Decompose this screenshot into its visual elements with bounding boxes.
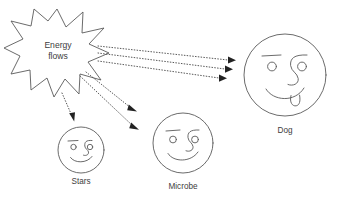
- flow-to-dog-1[interactable]: [98, 46, 236, 64]
- microbe-label: Microbe: [168, 182, 198, 191]
- flow-to-stars-1[interactable]: [62, 93, 75, 122]
- dog-node[interactable]: Dog: [244, 34, 326, 135]
- dog-mouth-icon: [266, 88, 304, 99]
- dog-right-eye-icon: [298, 62, 307, 71]
- arrowhead-icon: [225, 66, 233, 73]
- stars-right-eye-icon: [87, 144, 92, 149]
- arrowhead-icon: [69, 112, 75, 121]
- energy-flows-diagram: Energy flows: [0, 0, 341, 203]
- dog-left-eye-icon: [268, 62, 277, 71]
- stars-left-eyebrow-icon: [68, 141, 78, 142]
- arrowhead-icon: [127, 105, 137, 112]
- microbe-mouth-icon: [168, 152, 198, 160]
- stars-mouth-icon: [71, 157, 93, 162]
- flow-to-dog-2[interactable]: [98, 53, 233, 73]
- diagram-canvas: Energy flows: [0, 0, 341, 203]
- microbe-right-eye-icon: [192, 136, 199, 143]
- stars-face-circle: [58, 127, 104, 173]
- arrowhead-icon: [228, 57, 236, 64]
- stars-label: Stars: [71, 177, 90, 186]
- flow-to-microbe-2[interactable]: [80, 76, 139, 130]
- arrowhead-icon: [219, 75, 227, 82]
- stars-node[interactable]: Stars: [58, 127, 104, 186]
- burst-label-line-1: Energy: [44, 40, 72, 50]
- dog-face-circle: [244, 34, 326, 116]
- dog-label: Dog: [277, 126, 292, 135]
- stars-left-eye-icon: [71, 144, 76, 149]
- microbe-node[interactable]: Microbe: [153, 113, 213, 191]
- arrowhead-icon: [129, 122, 139, 129]
- energy-flows-burst[interactable]: Energy flows: [4, 9, 109, 97]
- flow-to-dog-3[interactable]: [98, 61, 227, 82]
- microbe-left-eyebrow-icon: [166, 130, 180, 131]
- microbe-left-eye-icon: [170, 136, 177, 143]
- dog-left-eyebrow-icon: [262, 55, 281, 56]
- microbe-right-eyebrow-nose-icon: [186, 130, 199, 151]
- burst-label-line-2: flows: [48, 51, 68, 61]
- microbe-face-circle: [153, 113, 213, 173]
